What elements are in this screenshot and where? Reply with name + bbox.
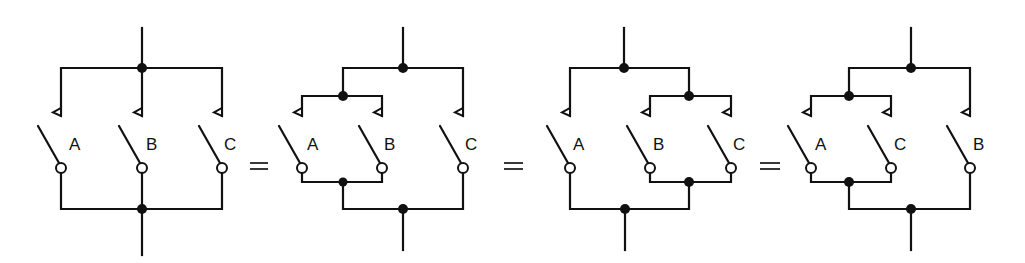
junction-dot bbox=[620, 204, 630, 214]
switch-a: A bbox=[38, 126, 81, 173]
switch-label: C bbox=[894, 135, 906, 154]
switch-label: C bbox=[733, 135, 745, 154]
junction-dot bbox=[906, 204, 916, 214]
switch-b: B bbox=[627, 126, 664, 173]
circuit-3: A B C bbox=[547, 28, 745, 250]
bottom-bus bbox=[343, 173, 463, 209]
switch-label: B bbox=[653, 135, 664, 154]
junction-dot bbox=[844, 91, 854, 101]
contact-a bbox=[294, 108, 302, 116]
switch-label: A bbox=[815, 135, 827, 154]
switch-a: A bbox=[279, 126, 319, 173]
contact-a bbox=[562, 108, 570, 116]
switch-label: A bbox=[573, 135, 585, 154]
bottom-bus bbox=[849, 173, 970, 209]
contact-a bbox=[803, 108, 811, 116]
switch-b: B bbox=[359, 126, 395, 173]
switch-label: A bbox=[307, 135, 319, 154]
equals-sign bbox=[504, 163, 523, 169]
contact-c bbox=[883, 108, 891, 116]
switch-b: B bbox=[947, 126, 984, 173]
switch-label: B bbox=[146, 135, 157, 154]
junction-dot bbox=[137, 204, 147, 214]
contact-b bbox=[642, 108, 650, 116]
top-bus bbox=[570, 68, 689, 116]
contact-c bbox=[723, 108, 731, 116]
circuit-2: A B C bbox=[279, 28, 477, 250]
switch-c: C bbox=[708, 126, 745, 173]
switch-c: C bbox=[440, 126, 477, 173]
circuit-4: A C B bbox=[788, 28, 984, 250]
junction-dot bbox=[398, 204, 408, 214]
equals-sign bbox=[250, 163, 268, 169]
top-bus bbox=[849, 68, 970, 116]
switch-c: C bbox=[868, 126, 906, 173]
junction-dot bbox=[137, 63, 147, 73]
junction-dot bbox=[338, 91, 348, 101]
contact-a bbox=[53, 108, 61, 116]
switch-a: A bbox=[788, 126, 827, 173]
equals-sign bbox=[760, 163, 780, 169]
switch-c: C bbox=[199, 126, 236, 173]
switch-label: B bbox=[384, 135, 395, 154]
contact-c bbox=[214, 108, 222, 116]
contact-c bbox=[455, 108, 463, 116]
switch-label: C bbox=[465, 135, 477, 154]
parallel-switch-equivalence-diagram: A B C A B bbox=[0, 0, 1025, 263]
contact-b bbox=[134, 108, 142, 116]
contact-b bbox=[962, 108, 970, 116]
switch-a: A bbox=[547, 126, 585, 173]
switch-label: C bbox=[224, 135, 236, 154]
bottom-bus bbox=[570, 173, 689, 209]
junction-dot bbox=[398, 63, 408, 73]
switch-b: B bbox=[119, 126, 157, 173]
circuit-1: A B C bbox=[38, 28, 236, 255]
switch-label: B bbox=[973, 135, 984, 154]
junction-dot bbox=[684, 91, 694, 101]
junction-dot bbox=[619, 63, 629, 73]
top-bus bbox=[343, 68, 463, 116]
switch-label: A bbox=[69, 135, 81, 154]
junction-dot bbox=[906, 63, 916, 73]
contact-b bbox=[374, 108, 382, 116]
